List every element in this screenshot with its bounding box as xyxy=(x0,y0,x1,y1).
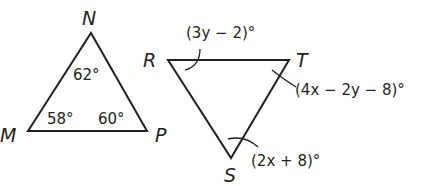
vertex-label-p: P xyxy=(155,124,167,146)
vertex-label-t: T xyxy=(296,49,309,71)
angle-p-value: 60° xyxy=(98,110,125,128)
triangles-diagram: N M P 62° 58° 60° R T S (3y − 2)° (4x − … xyxy=(0,0,435,186)
angle-s-arc xyxy=(228,138,258,147)
angle-r-expression: (3y − 2)° xyxy=(186,24,255,42)
angle-t-expression: (4x − 2y − 8)° xyxy=(295,81,405,99)
angle-n-value: 62° xyxy=(73,66,100,84)
triangle-rts xyxy=(168,60,289,158)
vertex-label-s: S xyxy=(224,164,236,186)
angle-m-value: 58° xyxy=(47,110,74,128)
vertex-label-n: N xyxy=(82,7,96,29)
vertex-label-r: R xyxy=(143,49,156,71)
angle-s-expression: (2x + 8)° xyxy=(251,152,320,170)
vertex-label-m: M xyxy=(0,124,16,146)
